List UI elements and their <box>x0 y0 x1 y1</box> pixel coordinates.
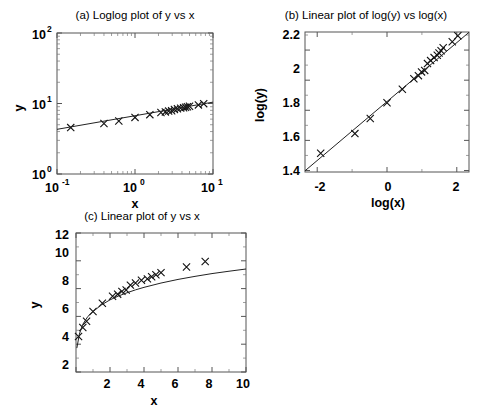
data-point-marker <box>383 99 390 106</box>
panel-b-plot-area <box>305 32 469 172</box>
panel-a-ytick-1-base: 10 <box>32 28 46 42</box>
panel-a-ytick-2-base: 10 <box>32 98 46 112</box>
panel-a-title: (a) Loglog plot of y vs x <box>76 9 195 21</box>
panel-a-xtick-3-exp: 1 <box>218 177 223 187</box>
panel-a-plot-area <box>57 33 213 174</box>
panel-b-linear-logs: (b) Linear plot of log(y) vs log(x) 1.4 … <box>238 0 484 209</box>
panel-b-ytick-1: 1.4 <box>283 164 300 178</box>
panel-a-xtick-3: 10 1 <box>201 177 223 195</box>
panel-b-ylabel: log(y) <box>253 88 267 122</box>
panel-c-xtick-3: 6 <box>172 377 179 391</box>
panel-c-ylabel: y <box>28 301 42 308</box>
panel-b-xtick-2: 0 <box>385 180 392 194</box>
figure-canvas: (a) Loglog plot of y vs x 10 2 10 1 10 0… <box>0 0 484 417</box>
panel-a-xtick-2: 10 0 <box>123 177 145 195</box>
data-point-marker <box>202 258 209 265</box>
panel-a-ytick-3: 10 0 <box>32 164 52 182</box>
data-point-marker <box>146 111 153 118</box>
panel-b-ytick-5: 2.2 <box>283 28 300 42</box>
panel-b-title: (b) Linear plot of log(y) vs log(x) <box>285 9 448 21</box>
panel-c-ytick-2: 4 <box>62 330 69 344</box>
panel-a-xtick-1-base: 10 <box>45 181 59 195</box>
panel-b-xlabel: log(x) <box>371 196 405 210</box>
panel-a-ytick-3-base: 10 <box>32 168 46 182</box>
data-point-marker <box>454 32 461 39</box>
panel-c-ytick-3: 6 <box>62 302 69 316</box>
panel-c-plot-area <box>75 233 246 372</box>
panel-c-title: (c) Linear plot of y vs x <box>84 210 200 222</box>
panel-a-xtick-2-base: 10 <box>123 181 137 195</box>
panel-c-ytick-4: 8 <box>62 274 69 288</box>
panel-a-ylabel: y <box>12 104 26 111</box>
panel-c-linear: (c) Linear plot of y vs x 2 4 6 8 10 12 … <box>14 200 264 417</box>
panel-a-xtick-2-exp: 0 <box>140 177 145 187</box>
panel-a-ytick-1-exp: 2 <box>47 24 52 34</box>
panel-b-ytick-4: 2 <box>293 62 300 76</box>
panel-a-xtick-3-base: 10 <box>201 181 215 195</box>
panel-a-ytick-2-exp: 1 <box>47 94 52 104</box>
panel-c-xlabel: x <box>151 394 158 408</box>
panel-a-ytick-2: 10 1 <box>32 94 52 112</box>
panel-b-xtick-3: 2 <box>453 180 460 194</box>
panel-a-xtick-1-exp: -1 <box>62 177 70 187</box>
panel-c-xtick-4: 8 <box>206 377 213 391</box>
panel-c-xtick-1: 2 <box>104 377 111 391</box>
panel-a-ytick-3-exp: 0 <box>47 164 52 174</box>
panel-a-xtick-1: 10 -1 <box>45 177 70 195</box>
data-point-marker <box>440 44 447 51</box>
panel-c-ytick-5: 10 <box>55 246 69 260</box>
panel-a-loglog: (a) Loglog plot of y vs x 10 2 10 1 10 0… <box>0 0 242 209</box>
panel-c-ytick-1: 2 <box>62 358 69 372</box>
panel-b-ytick-2: 1.6 <box>283 130 300 144</box>
panel-c-xtick-2: 4 <box>138 377 145 391</box>
data-point-marker <box>183 263 190 270</box>
panel-a-ytick-1: 10 2 <box>32 24 52 42</box>
panel-b-xtick-1: -2 <box>314 180 325 194</box>
panel-b-ytick-3: 1.8 <box>283 96 300 110</box>
panel-c-ytick-6: 12 <box>55 228 69 242</box>
panel-c-xtick-5: 10 <box>236 377 250 391</box>
